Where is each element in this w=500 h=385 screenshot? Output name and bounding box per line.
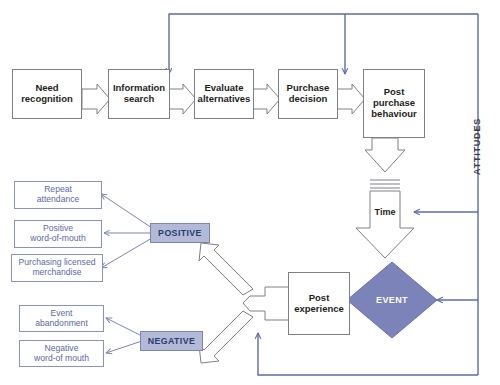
outcome-box-repeat-attendance[interactable]: Repeat attendance	[14, 181, 102, 209]
outcome-box-positive-word-of-mouth[interactable]: Positive word-of-mouth	[14, 220, 102, 248]
positive-outcome-arrows	[101, 194, 152, 268]
flow-box-information-search[interactable]: Information search	[108, 69, 170, 119]
valence-box-negative[interactable]: NEGATIVE	[140, 331, 203, 351]
flow-box-post-purchase-behaviour[interactable]: Post purchase behaviour	[363, 69, 425, 138]
outcome-box-purchasing-licensed-merchandise[interactable]: Purchasing licensed merchandise	[11, 254, 103, 282]
connector-evaluate-to-purchase	[252, 84, 280, 114]
flow-box-post-experience[interactable]: Post experience	[288, 272, 350, 335]
event-node-label[interactable]: EVENT	[357, 295, 427, 305]
arrow-to-negative	[199, 311, 253, 363]
arrow-to-positive	[199, 243, 253, 295]
attitudes-axis-label: ATTITUDES	[472, 118, 482, 175]
outcome-box-negative-word-of-mouth[interactable]: Negative word-of mouth	[19, 340, 104, 367]
top-feedback-loop	[169, 14, 478, 74]
flow-box-purchase-decision[interactable]: Purchase decision	[278, 69, 338, 119]
connector-purchase-to-post	[337, 84, 365, 114]
time-stripe-bands	[370, 180, 400, 188]
valence-box-positive[interactable]: POSITIVE	[150, 223, 210, 243]
negative-outcome-arrows	[106, 318, 142, 353]
flowchart-canvas: Need recognition Information search Eval…	[0, 0, 500, 385]
time-node-label: Time	[355, 207, 415, 217]
connector-info-to-evaluate	[168, 84, 196, 114]
connector-post-purchase-to-time	[365, 138, 405, 172]
connector-need-to-info	[82, 84, 110, 114]
flow-box-need-recognition[interactable]: Need recognition	[12, 69, 82, 119]
flow-box-evaluate-alternatives[interactable]: Evaluate alternatives	[194, 69, 254, 119]
time-arrow-shape	[356, 191, 414, 258]
outcome-box-event-abandonment[interactable]: Event abandonment	[19, 305, 104, 332]
valence-split-arrows	[199, 243, 253, 363]
